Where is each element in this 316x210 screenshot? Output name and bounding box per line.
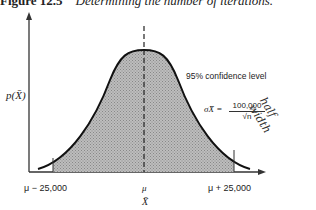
x-tick-upper: μ + 25,000 <box>208 183 251 193</box>
x-tick-lower: μ − 25,000 <box>24 183 67 193</box>
x-axis-arrow-icon <box>258 169 266 175</box>
sigma-label: σX̄ = <box>204 104 222 114</box>
x-axis-label: X̄ <box>142 196 148 207</box>
confidence-annotation: 95% confidence level <box>186 71 266 81</box>
x-tick-mean: μ <box>142 183 147 193</box>
y-axis-arrow-icon <box>26 12 32 20</box>
y-axis-label: p(X̄) <box>6 89 26 101</box>
